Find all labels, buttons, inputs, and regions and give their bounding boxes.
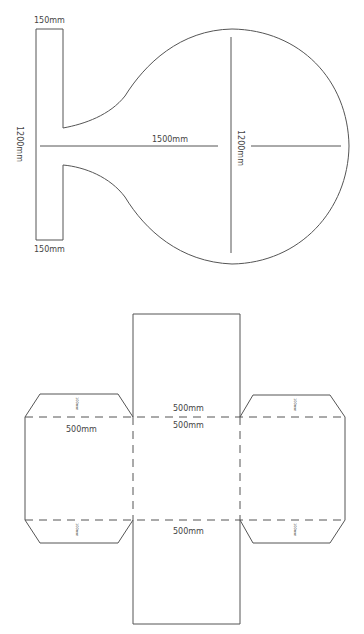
flap-bottom-right-label: 100mm	[293, 523, 297, 537]
flap-top-left-label: 100mm	[75, 397, 79, 411]
stem-bottom-width-label: 150mm	[34, 245, 65, 254]
stem-top-width-label: 150mm	[34, 16, 65, 25]
box-net	[25, 314, 345, 624]
top-panel-label: 500mm	[173, 404, 204, 413]
top-diagram	[36, 29, 349, 264]
total-length-label: 1500mm	[152, 135, 188, 144]
center-panel-label: 500mm	[173, 421, 204, 430]
left-panel-label: 500mm	[66, 425, 97, 434]
circle-diameter-label: 1200mm	[236, 130, 245, 166]
flap-top-right-outline	[240, 395, 345, 417]
flap-bottom-left-label: 100mm	[75, 523, 79, 537]
bottom-panel-label: 500mm	[173, 527, 204, 536]
stem-height-label: 1200mm	[15, 126, 24, 162]
drawing-canvas: 150mm 150mm 1200mm 1500mm 1200mm 500mm 5…	[0, 0, 364, 634]
top-panel-outline	[133, 314, 240, 417]
flap-bottom-right-outline	[240, 520, 345, 543]
flap-top-right-label: 100mm	[293, 398, 297, 412]
